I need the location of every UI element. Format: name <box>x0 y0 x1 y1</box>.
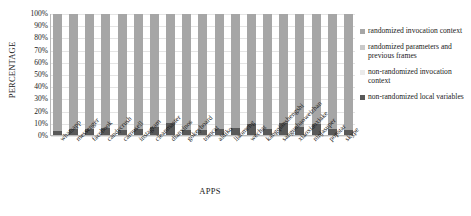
y-axis-tick-label: 50% <box>34 71 48 79</box>
x-axis-title: APPS <box>150 186 270 196</box>
bar <box>69 14 78 135</box>
y-axis-tick-label: 0% <box>38 132 48 140</box>
bar <box>231 14 240 135</box>
bar-segment <box>182 14 191 130</box>
bar-segment <box>198 14 207 130</box>
bar-segment <box>69 14 78 129</box>
x-axis-title-label: APPS <box>199 186 221 196</box>
legend-item[interactable]: randomized parameters and previous frame… <box>360 42 468 60</box>
legend-item[interactable]: non-randomized invocation context <box>360 67 468 85</box>
y-axis-tick-label: 30% <box>34 96 48 104</box>
bar-segment <box>328 14 337 129</box>
bar-segment <box>101 14 110 128</box>
legend-swatch-icon <box>360 29 365 34</box>
bar-segment <box>263 14 272 129</box>
legend-item-label: non-randomized local variables <box>368 92 464 101</box>
bar-segment <box>134 14 143 129</box>
bar <box>344 14 353 135</box>
bar <box>182 14 191 135</box>
bar-segment <box>150 14 159 127</box>
bar-segment <box>118 14 127 130</box>
y-axis-tick-label: 100% <box>31 10 49 18</box>
bar-segment <box>344 14 353 130</box>
y-axis-title-label: PERCENTAGE <box>7 42 17 99</box>
legend-item-label: non-randomized invocation context <box>368 67 468 85</box>
bar-segment <box>231 14 240 128</box>
legend-swatch-icon <box>360 45 365 50</box>
legend-item-label: randomized invocation context <box>368 26 462 35</box>
y-axis-tick-label: 40% <box>34 83 48 91</box>
legend-item[interactable]: randomized invocation context <box>360 26 468 35</box>
bar-segment <box>85 14 94 129</box>
y-axis-tick-labels: 100%90%80%70%60%50%40%30%20%10%0% <box>18 14 48 136</box>
stacked-bar-chart: PERCENTAGE 100%90%80%70%60%50%40%30%20%1… <box>0 0 471 216</box>
bar-segment <box>215 14 224 129</box>
bar-segment <box>53 14 62 131</box>
y-axis-tick-label: 80% <box>34 35 48 43</box>
legend-item[interactable]: non-randomized local variables <box>360 92 468 101</box>
bar <box>150 14 159 135</box>
y-axis-tick-label: 20% <box>34 108 48 116</box>
legend-swatch-icon <box>360 95 365 100</box>
bar <box>101 14 110 135</box>
bar-segment <box>166 14 175 123</box>
legend-item-label: randomized parameters and previous frame… <box>368 42 468 60</box>
bar <box>215 14 224 135</box>
y-axis-tick-label: 70% <box>34 47 48 55</box>
bar <box>263 14 272 135</box>
legend-swatch-icon <box>360 70 365 75</box>
y-axis-tick-label: 60% <box>34 59 48 67</box>
y-axis-tick-label: 10% <box>34 120 48 128</box>
bar-segment <box>247 14 256 124</box>
bar-segment <box>279 14 288 123</box>
chart-legend: randomized invocation contextrandomized … <box>360 26 468 108</box>
bar <box>134 14 143 135</box>
bar <box>247 14 256 135</box>
bar <box>53 14 62 135</box>
y-axis-tick-label: 90% <box>34 22 48 30</box>
